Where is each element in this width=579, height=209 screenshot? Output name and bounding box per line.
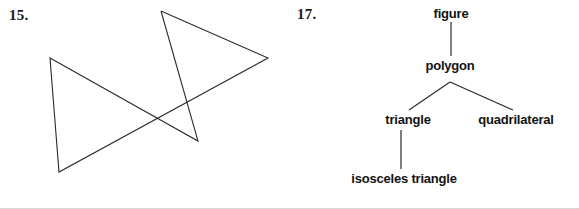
- exercise-page: 15. 17. figure polygon triangle quadrila…: [0, 0, 579, 209]
- exercise-15-panel: 15.: [0, 0, 290, 209]
- star-polyline: [50, 11, 268, 172]
- edge-polygon-to-quadrilateral: [450, 82, 513, 110]
- tree-node-triangle: triangle: [385, 112, 430, 127]
- tree-node-polygon: polygon: [425, 58, 474, 73]
- star-figure: [0, 0, 290, 209]
- tree-node-isosceles-triangle: isosceles triangle: [351, 171, 457, 186]
- exercise-17-panel: 17. figure polygon triangle quadrilatera…: [289, 0, 579, 209]
- tree-node-figure: figure: [434, 6, 469, 21]
- edge-polygon-to-triangle: [409, 82, 450, 110]
- tree-node-quadrilateral: quadrilateral: [478, 112, 553, 127]
- page-bottom-divider: [0, 208, 579, 209]
